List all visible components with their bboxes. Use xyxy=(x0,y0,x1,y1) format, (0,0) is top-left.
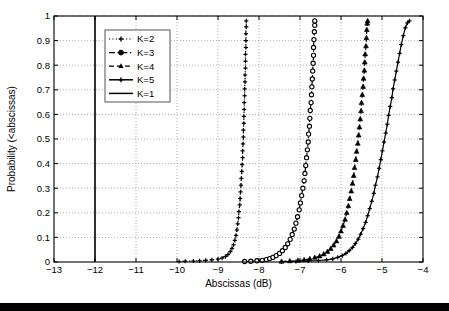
data-marker-plus xyxy=(243,59,247,63)
data-marker-plus xyxy=(398,51,402,55)
legend-label-k-2: K=2 xyxy=(137,33,154,44)
x-tick-label: −6 xyxy=(336,264,347,275)
data-marker-plus xyxy=(361,226,365,230)
data-marker-circle xyxy=(312,30,316,34)
data-marker-plus xyxy=(243,94,247,98)
data-marker-circle xyxy=(286,242,290,246)
data-marker-plus xyxy=(388,104,392,108)
data-marker-plus xyxy=(238,190,242,194)
data-marker-circle xyxy=(306,140,310,144)
figure-canvas: −13−12−11−10−9−8−7−6−5−400.10.20.30.40.5… xyxy=(0,0,449,311)
data-marker-circle xyxy=(307,124,311,128)
data-marker-plus xyxy=(359,232,363,236)
series-k-3 xyxy=(243,19,317,264)
y-tick-label: 0.8 xyxy=(37,60,50,71)
data-marker-triangle xyxy=(357,125,362,129)
data-marker-plus xyxy=(183,259,187,263)
data-marker-circle xyxy=(311,69,315,73)
data-marker-plus xyxy=(401,34,405,38)
data-marker-circle xyxy=(308,116,312,120)
data-marker-circle xyxy=(310,77,314,81)
data-marker-triangle xyxy=(353,157,358,161)
x-tick-label: −8 xyxy=(254,264,265,275)
data-marker-circle xyxy=(309,93,313,97)
legend-label-k-5: K=5 xyxy=(137,74,154,85)
series-line xyxy=(179,21,246,262)
data-marker-circle xyxy=(302,179,306,183)
data-marker-circle xyxy=(301,186,305,190)
data-marker-circle xyxy=(294,221,298,225)
data-marker-plus xyxy=(373,183,377,187)
data-marker-circle xyxy=(312,38,316,42)
data-marker-triangle xyxy=(360,92,365,96)
data-marker-circle xyxy=(304,156,308,160)
cdf-plot: −13−12−11−10−9−8−7−6−5−400.10.20.30.40.5… xyxy=(0,0,449,311)
data-marker-plus xyxy=(391,87,395,91)
data-marker-plus xyxy=(233,238,237,242)
data-marker-triangle xyxy=(347,196,352,200)
data-marker-circle xyxy=(308,108,312,112)
data-marker-plus xyxy=(242,107,246,111)
data-marker-plus xyxy=(368,207,372,211)
data-marker-circle xyxy=(313,23,317,27)
data-marker-plus xyxy=(244,39,248,43)
x-tick-label: −9 xyxy=(213,264,224,275)
data-marker-plus xyxy=(379,158,383,162)
data-marker-plus xyxy=(234,233,238,237)
data-marker-circle xyxy=(309,100,313,104)
data-marker-plus xyxy=(236,222,240,226)
x-axis-label: Abscissas (dB) xyxy=(205,278,272,289)
data-marker-triangle xyxy=(349,189,354,193)
data-marker-plus xyxy=(243,87,247,91)
data-marker-plus xyxy=(242,114,246,118)
y-tick-label: 0.9 xyxy=(37,35,50,46)
data-marker-circle xyxy=(297,208,301,212)
data-marker-triangle xyxy=(351,173,356,177)
y-tick-label: 0.7 xyxy=(37,84,50,95)
series-line xyxy=(282,21,410,262)
data-marker-plus xyxy=(366,214,370,218)
data-marker-circle xyxy=(292,227,296,231)
data-marker-circle xyxy=(311,61,315,65)
data-marker-plus xyxy=(241,156,245,160)
y-tick-label: 0 xyxy=(45,256,50,267)
series-line xyxy=(245,21,315,262)
data-marker-circle xyxy=(313,19,317,23)
data-marker-plus xyxy=(370,199,374,203)
data-marker-circle xyxy=(304,163,308,167)
data-marker-circle xyxy=(305,148,309,152)
data-marker-plus xyxy=(399,42,403,46)
data-marker-triangle xyxy=(364,35,369,39)
data-marker-triangle xyxy=(365,18,370,22)
data-marker-triangle xyxy=(358,116,363,120)
data-marker-plus xyxy=(231,243,235,247)
data-marker-triangle xyxy=(359,108,364,112)
y-tick-label: 0.2 xyxy=(37,207,50,218)
y-axis-label: Probability (<abscissas) xyxy=(6,86,17,192)
data-marker-triangle xyxy=(361,76,366,80)
data-marker-plus xyxy=(236,216,240,220)
data-marker-plus xyxy=(242,100,246,104)
data-marker-plus xyxy=(394,69,398,73)
series-k-4 xyxy=(279,18,370,263)
data-marker-plus xyxy=(239,176,243,180)
data-marker-plus xyxy=(243,66,247,70)
series-k-2 xyxy=(177,19,248,264)
data-marker-plus xyxy=(242,121,246,125)
data-marker-circle xyxy=(288,237,292,241)
data-marker-plus xyxy=(241,142,245,146)
data-marker-circle xyxy=(295,215,299,219)
data-marker-plus xyxy=(382,140,386,144)
legend: K=2K=3K=4K=5K=1 xyxy=(105,30,170,102)
bottom-black-bar xyxy=(0,303,449,311)
data-marker-circle xyxy=(310,85,314,89)
data-marker-plus xyxy=(375,175,379,179)
data-marker-plus xyxy=(210,258,214,262)
x-tick-label: −7 xyxy=(295,264,306,275)
data-marker-plus xyxy=(384,131,388,135)
data-marker-plus xyxy=(238,196,242,200)
series-line xyxy=(282,21,368,262)
data-marker-circle xyxy=(290,232,294,236)
data-marker-triangle xyxy=(354,149,359,153)
data-marker-plus xyxy=(336,255,340,259)
